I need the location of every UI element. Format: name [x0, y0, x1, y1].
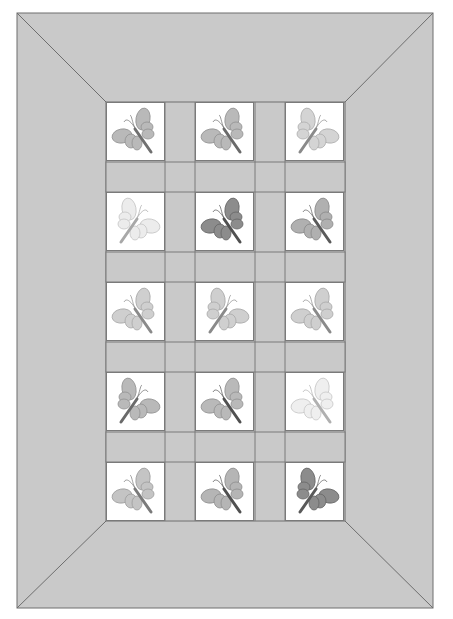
butterfly-icon: [110, 466, 162, 518]
butterfly-block: [106, 102, 165, 161]
butterfly-icon: [199, 106, 251, 158]
butterfly-icon: [199, 196, 251, 248]
butterfly-block: [285, 282, 344, 341]
butterfly-icon: [110, 286, 162, 338]
butterfly-icon: [199, 466, 251, 518]
butterfly-block: [106, 282, 165, 341]
butterfly-block: [195, 102, 254, 161]
butterfly-block: [195, 372, 254, 431]
butterfly-icon: [289, 196, 341, 248]
butterfly-icon: [289, 286, 341, 338]
butterfly-icon: [289, 376, 341, 428]
butterfly-block: [106, 192, 165, 251]
butterfly-block: [195, 192, 254, 251]
butterfly-block: [285, 372, 344, 431]
butterfly-block: [195, 282, 254, 341]
butterfly-icon: [199, 286, 251, 338]
butterfly-icon: [289, 106, 341, 158]
butterfly-block: [285, 462, 344, 521]
butterfly-icon: [110, 106, 162, 158]
butterfly-quilt: [0, 0, 453, 619]
butterfly-icon: [110, 196, 162, 248]
butterfly-block: [285, 102, 344, 161]
butterfly-icon: [110, 376, 162, 428]
butterfly-block: [106, 372, 165, 431]
butterfly-block: [195, 462, 254, 521]
butterfly-icon: [289, 466, 341, 518]
butterfly-icon: [199, 376, 251, 428]
butterfly-block: [106, 462, 165, 521]
butterfly-block: [285, 192, 344, 251]
